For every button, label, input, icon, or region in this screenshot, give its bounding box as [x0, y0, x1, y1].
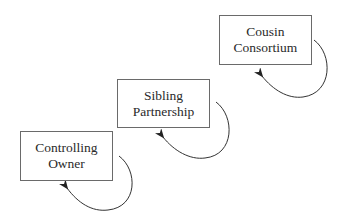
stage-label-line1: Cousin — [246, 24, 284, 40]
stage-box-cousin-consortium: Cousin Consortium — [219, 15, 312, 65]
stage-label-line2: Consortium — [234, 40, 298, 56]
stage-label-line2: Owner — [48, 156, 85, 172]
stage-box-controlling-owner: Controlling Owner — [20, 131, 113, 181]
stage-label-line1: Controlling — [35, 140, 97, 156]
stage-label-line1: Sibling — [144, 88, 183, 104]
stage-label-line2: Partnership — [133, 104, 195, 120]
stage-box-sibling-partnership: Sibling Partnership — [117, 79, 210, 128]
